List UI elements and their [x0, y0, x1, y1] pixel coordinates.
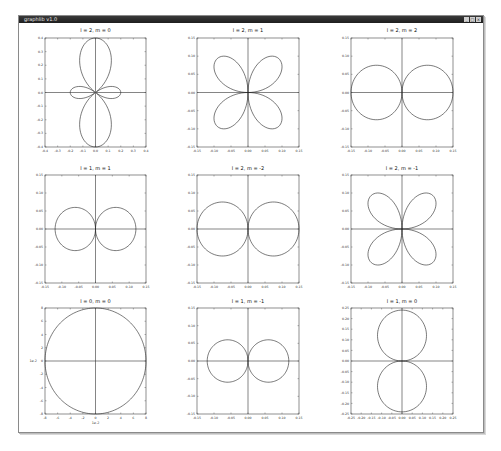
- x-tick-label: 2: [107, 416, 109, 420]
- x-tick-label: 0.10: [126, 285, 133, 289]
- subplot-5: l = 2, m = -2-0.15-0.10-0.050.000.050.10…: [187, 165, 303, 289]
- x-tick-label: -4: [69, 416, 72, 420]
- x-tick-label: -0.05: [381, 285, 389, 289]
- x-tick-label: -0.10: [210, 149, 218, 153]
- y-tick-label: 6: [41, 319, 43, 323]
- x-tick-label: -0.15: [193, 149, 201, 153]
- y-tick-label: -0.25: [341, 412, 349, 416]
- x-tick-label: 0.4: [143, 149, 148, 153]
- x-tick-label: 0.05: [409, 416, 416, 420]
- x-tick-label: 0.3: [131, 149, 136, 153]
- x-tick-label: 0.05: [415, 149, 422, 153]
- x-tick-label: 0.15: [295, 416, 302, 420]
- x-tick-label: -6: [56, 416, 59, 420]
- subplot-9: l = 1, m = 0-0.25-0.20-0.15-0.10-0.050.0…: [341, 298, 457, 420]
- y-tick-label: -0.10: [341, 263, 349, 267]
- x-axis-label: 1e-2: [92, 421, 100, 425]
- x-tick-label: 0.05: [261, 416, 268, 420]
- y-tick-label: 0.05: [342, 349, 349, 353]
- x-tick-label: 6: [132, 416, 134, 420]
- x-tick-label: 0.05: [109, 285, 116, 289]
- x-tick-label: 0.15: [429, 416, 436, 420]
- x-tick-label: 0.20: [439, 416, 446, 420]
- x-tick-label: -0.20: [357, 416, 365, 420]
- y-tick-label: 2: [41, 346, 43, 350]
- x-tick-label: 0.15: [295, 285, 302, 289]
- x-tick-label: 0.10: [278, 285, 285, 289]
- y-tick-label: 0.10: [342, 54, 349, 58]
- x-tick-label: 0.00: [244, 285, 251, 289]
- x-tick-label: 0.00: [244, 149, 251, 153]
- x-tick-label: 0.10: [278, 149, 285, 153]
- x-tick-label: 0.00: [398, 149, 405, 153]
- y-tick-label: -6: [40, 399, 43, 403]
- x-tick-label: -0.1: [80, 149, 86, 153]
- x-tick-label: -0.15: [367, 416, 375, 420]
- y-tick-label: -0.4: [37, 145, 43, 149]
- y-tick-label: -0.05: [341, 109, 349, 113]
- y-tick-label: -0.10: [35, 263, 43, 267]
- x-tick-label: -0.15: [41, 285, 49, 289]
- x-tick-label: 0.0: [93, 149, 98, 153]
- y-tick-label: 0.00: [342, 91, 349, 95]
- x-tick-label: 0.00: [398, 285, 405, 289]
- y-tick-label: 8: [41, 306, 43, 310]
- x-tick-label: -0.3: [55, 149, 61, 153]
- y-tick-label: -0.05: [341, 370, 349, 374]
- y-tick-label: -0.05: [35, 245, 43, 249]
- x-tick-label: -0.05: [227, 416, 235, 420]
- subplot-7: l = 0, m = 0-8-6-4-20246886420-2-4-6-81e…: [29, 298, 147, 425]
- y-tick-label: -0.15: [187, 281, 195, 285]
- x-tick-label: -0.15: [193, 285, 201, 289]
- y-tick-label: -0.3: [37, 131, 43, 135]
- subplot-title: l = 0, m = 0: [80, 298, 111, 304]
- y-tick-label: 0.00: [342, 359, 349, 363]
- x-tick-label: 0.05: [261, 149, 268, 153]
- x-tick-label: -0.10: [364, 149, 372, 153]
- x-tick-label: 0.10: [419, 416, 426, 420]
- x-tick-label: -0.05: [227, 285, 235, 289]
- x-tick-label: -0.10: [377, 416, 385, 420]
- x-tick-label: -0.05: [388, 416, 396, 420]
- y-tick-label: 0.05: [188, 72, 195, 76]
- y-tick-label: 0.05: [188, 341, 195, 345]
- x-tick-label: -0.05: [75, 285, 83, 289]
- y-tick-label: 0.00: [188, 227, 195, 231]
- x-tick-label: 0.15: [295, 149, 302, 153]
- x-tick-label: 0.00: [92, 285, 99, 289]
- y-tick-label: 0.15: [188, 306, 195, 310]
- y-tick-label: 0.00: [188, 91, 195, 95]
- subplot-6: l = 2, m = -1-0.15-0.10-0.050.000.050.10…: [341, 165, 457, 289]
- subplot-title: l = 1, m = -1: [232, 298, 264, 304]
- x-tick-label: 0.15: [449, 285, 456, 289]
- y-tick-label: 0.0: [38, 91, 43, 95]
- y-tick-label: 0.15: [342, 173, 349, 177]
- y-tick-label: 0.05: [188, 209, 195, 213]
- y-tick-label: 4: [41, 333, 43, 337]
- subplot-1: l = 2, m = 0-0.4-0.3-0.2-0.10.00.10.20.3…: [37, 27, 149, 153]
- y-tick-label: 0.3: [38, 50, 43, 54]
- x-tick-label: -0.10: [210, 285, 218, 289]
- x-tick-label: -0.2: [67, 149, 73, 153]
- x-tick-label: 0.05: [261, 285, 268, 289]
- subplot-title: l = 2, m = 2: [387, 27, 418, 33]
- x-tick-label: -0.05: [227, 149, 235, 153]
- x-tick-label: 0.25: [449, 416, 456, 420]
- y-tick-label: 0.10: [188, 54, 195, 58]
- subplot-8: l = 1, m = -1-0.15-0.10-0.050.000.050.10…: [187, 298, 303, 420]
- x-tick-label: 0: [94, 416, 96, 420]
- subplot-title: l = 1, m = 0: [387, 298, 418, 304]
- y-tick-label: -0.1: [37, 104, 43, 108]
- y-tick-label: 0.00: [36, 227, 43, 231]
- y-tick-label: -4: [40, 386, 43, 390]
- plot-grid: l = 2, m = 0-0.4-0.3-0.2-0.10.00.10.20.3…: [0, 0, 501, 451]
- y-tick-label: -0.05: [187, 245, 195, 249]
- y-tick-label: -0.10: [341, 380, 349, 384]
- x-tick-label: -0.10: [364, 285, 372, 289]
- x-tick-label: -0.25: [347, 416, 355, 420]
- subplot-title: l = 2, m = -1: [386, 165, 418, 171]
- y-tick-label: 0.15: [36, 173, 43, 177]
- x-tick-label: 0.15: [449, 149, 456, 153]
- y-tick-label: 0.05: [342, 72, 349, 76]
- y-tick-label: 0.15: [188, 36, 195, 40]
